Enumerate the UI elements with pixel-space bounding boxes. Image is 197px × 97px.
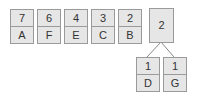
node-freq: 6 (38, 10, 60, 27)
tree-leaf-g: 1 G (163, 57, 187, 92)
queue-node-c: 3 C (91, 9, 115, 44)
node-symbol: E (65, 27, 87, 43)
node-symbol: A (11, 27, 33, 43)
queue-node-b: 2 B (118, 9, 142, 44)
node-symbol: B (119, 27, 141, 43)
queue-node-e: 4 E (64, 9, 88, 44)
node-freq: 2 (119, 10, 141, 27)
node-symbol: C (92, 27, 114, 43)
queue-node-f: 6 F (37, 9, 61, 44)
tree-root-node: 2 (149, 8, 174, 43)
edge-root-to-d (147, 42, 161, 57)
node-symbol: D (137, 75, 159, 91)
node-symbol: G (164, 75, 186, 91)
edge-root-to-g (161, 42, 174, 57)
node-symbol: F (38, 27, 60, 43)
node-freq: 1 (137, 58, 159, 75)
queue-node-a: 7 A (10, 9, 34, 44)
tree-leaf-d: 1 D (136, 57, 160, 92)
node-freq: 7 (11, 10, 33, 27)
node-freq: 1 (164, 58, 186, 75)
node-freq: 3 (92, 10, 114, 27)
node-freq: 4 (65, 10, 87, 27)
